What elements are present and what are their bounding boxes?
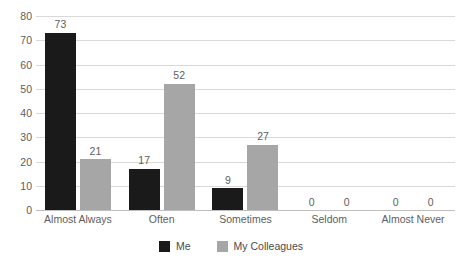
legend-item[interactable]: My Colleagues	[217, 241, 303, 252]
bar-group: 00	[287, 16, 371, 210]
x-tick-label: Sometimes	[204, 214, 288, 225]
y-tick-label: 80	[0, 11, 32, 22]
bar-chart: 80706050403020100 732117529270000 Almost…	[0, 0, 462, 274]
bar[interactable]	[247, 145, 278, 210]
y-tick-label: 0	[0, 205, 32, 216]
x-axis: Almost AlwaysOftenSometimesSeldomAlmost …	[36, 214, 455, 225]
bar-value-label: 9	[225, 175, 231, 186]
bar-groups: 732117529270000	[36, 16, 455, 210]
bar[interactable]	[45, 33, 76, 210]
bar-value-label: 21	[90, 146, 102, 157]
bar-slot: 0	[380, 16, 411, 210]
legend-swatch-icon	[159, 241, 170, 252]
bar-slot: 27	[247, 16, 278, 210]
x-tick-label: Almost Always	[36, 214, 120, 225]
bar-group: 00	[371, 16, 455, 210]
bar-slot: 0	[331, 16, 362, 210]
bar-slot: 0	[415, 16, 446, 210]
y-tick-label: 30	[0, 132, 32, 143]
y-axis: 80706050403020100	[0, 16, 32, 210]
bar[interactable]	[80, 159, 111, 210]
bar-slot: 21	[80, 16, 111, 210]
bar-group: 1752	[120, 16, 204, 210]
bar[interactable]	[212, 188, 243, 210]
legend-label: Me	[176, 241, 191, 252]
bar[interactable]	[129, 169, 160, 210]
x-tick-label: Almost Never	[371, 214, 455, 225]
legend-item[interactable]: Me	[159, 241, 191, 252]
y-tick-label: 50	[0, 84, 32, 95]
x-tick-label: Seldom	[287, 214, 371, 225]
x-tick-label: Often	[120, 214, 204, 225]
legend-swatch-icon	[217, 241, 228, 252]
y-tick-label: 20	[0, 156, 32, 167]
bar-group: 7321	[36, 16, 120, 210]
bar-slot: 52	[164, 16, 195, 210]
y-tick-label: 10	[0, 181, 32, 192]
bar-slot: 0	[296, 16, 327, 210]
chart-legend: MeMy Colleagues	[0, 241, 462, 252]
bar-slot: 73	[45, 16, 76, 210]
y-tick-label: 60	[0, 59, 32, 70]
axis-baseline	[36, 210, 455, 211]
bar-value-label: 0	[344, 197, 350, 208]
bar-value-label: 0	[393, 197, 399, 208]
bar-value-label: 27	[257, 131, 269, 142]
y-tick-label: 40	[0, 108, 32, 119]
bar-slot: 9	[212, 16, 243, 210]
bar-group: 927	[204, 16, 288, 210]
legend-label: My Colleagues	[234, 241, 303, 252]
bar-value-label: 52	[173, 70, 185, 81]
bar-value-label: 0	[309, 197, 315, 208]
bar-value-label: 17	[138, 155, 150, 166]
y-tick-label: 70	[0, 35, 32, 46]
bar-value-label: 0	[428, 197, 434, 208]
bar-slot: 17	[129, 16, 160, 210]
bar[interactable]	[164, 84, 195, 210]
bar-value-label: 73	[55, 19, 67, 30]
